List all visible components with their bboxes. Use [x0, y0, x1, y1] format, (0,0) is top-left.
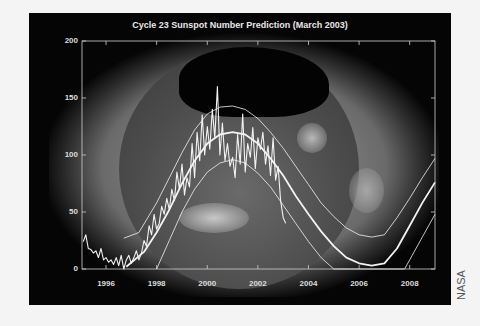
x-tick-label: 2008 — [390, 279, 430, 288]
x-tick-label: 2004 — [288, 279, 328, 288]
y-tick-label: 200 — [38, 36, 78, 45]
data-series — [83, 87, 435, 269]
x-tick-label: 2000 — [187, 279, 227, 288]
y-tick-label: 0 — [38, 264, 78, 273]
x-tick-label: 2006 — [339, 279, 379, 288]
axes — [82, 41, 435, 269]
series-line — [124, 106, 435, 238]
chart-frame: Cycle 23 Sunspot Number Prediction (Marc… — [29, 13, 451, 305]
y-tick-label: 50 — [38, 207, 78, 216]
y-tick-label: 100 — [38, 150, 78, 159]
x-tick-label: 1996 — [86, 279, 126, 288]
plot-area — [29, 13, 451, 305]
y-tick-label: 150 — [38, 93, 78, 102]
image-credit: NASA — [455, 270, 467, 300]
x-tick-label: 1998 — [137, 279, 177, 288]
x-tick-label: 2002 — [238, 279, 278, 288]
